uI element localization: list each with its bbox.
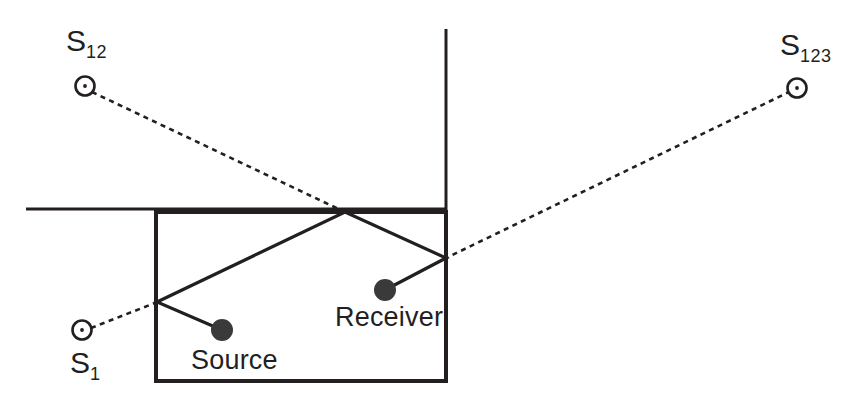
dashed-ray-s1 <box>91 301 160 328</box>
image-source-s123-symbol: S <box>780 28 800 61</box>
image-source-s1-marker <box>73 321 92 340</box>
receiver-dot <box>374 279 396 301</box>
source-label: Source <box>191 347 278 374</box>
image-source-s123-label: S123 <box>780 30 832 60</box>
image-source-s12-subscript: 12 <box>86 42 107 62</box>
source-dot <box>211 319 233 341</box>
diagram-canvas <box>0 0 853 409</box>
image-source-s123-subscript: 123 <box>800 46 832 66</box>
image-source-s12-label: S12 <box>66 26 107 56</box>
receiver-label: Receiver <box>335 304 443 331</box>
dashed-ray-s123 <box>444 92 789 259</box>
dashed-ray-s12 <box>92 92 347 213</box>
image-source-s123-marker <box>788 79 807 98</box>
image-source-s12-marker <box>76 77 95 96</box>
image-source-s12-symbol: S <box>66 24 86 57</box>
image-source-s1-subscript: 1 <box>90 364 101 384</box>
image-source-s1-label: S1 <box>70 348 101 378</box>
image-source-diagram: Source Receiver S12 S123 S1 <box>0 0 853 409</box>
image-source-s1-symbol: S <box>70 346 90 379</box>
